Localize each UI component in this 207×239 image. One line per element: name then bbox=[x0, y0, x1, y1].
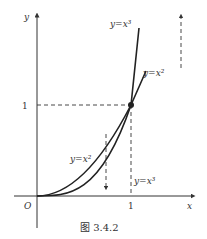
label-upper-x-squared: y=x² bbox=[142, 68, 165, 78]
label-lower-x-cubed: y=x³ bbox=[133, 176, 156, 186]
y-axis-label: y bbox=[23, 12, 30, 22]
power-function-figure: y x O 1 1 y=x³ y=x² y=x² y=x³ 图 3.4.2 bbox=[0, 0, 207, 239]
x-axis-label: x bbox=[187, 201, 192, 211]
label-upper-x-cubed: y=x³ bbox=[109, 19, 132, 29]
tick-label-x1: 1 bbox=[128, 201, 134, 211]
origin-label: O bbox=[24, 201, 32, 211]
figure-caption: 图 3.4.2 bbox=[80, 222, 119, 233]
intersection-point bbox=[128, 102, 134, 108]
curve-x-cubed bbox=[37, 28, 139, 196]
tick-label-y1: 1 bbox=[22, 101, 28, 111]
label-lower-x-squared: y=x² bbox=[69, 154, 92, 164]
